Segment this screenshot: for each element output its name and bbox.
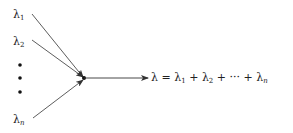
superposition-diagram: λ1 λ2 λn λ = λ1 + λ2 + ··· + λn [0,0,293,133]
arrow-graphics [0,0,293,133]
input-arrow-n [33,80,83,118]
input-label-1: λ1 [13,9,24,22]
ellipsis-dot [18,90,22,94]
ellipsis-dot [18,63,22,67]
input-label-n: λn [13,114,25,127]
input-label-2: λ2 [13,36,24,49]
ellipsis-dot [18,76,22,80]
output-equation: λ = λ1 + λ2 + ··· + λn [151,72,268,85]
